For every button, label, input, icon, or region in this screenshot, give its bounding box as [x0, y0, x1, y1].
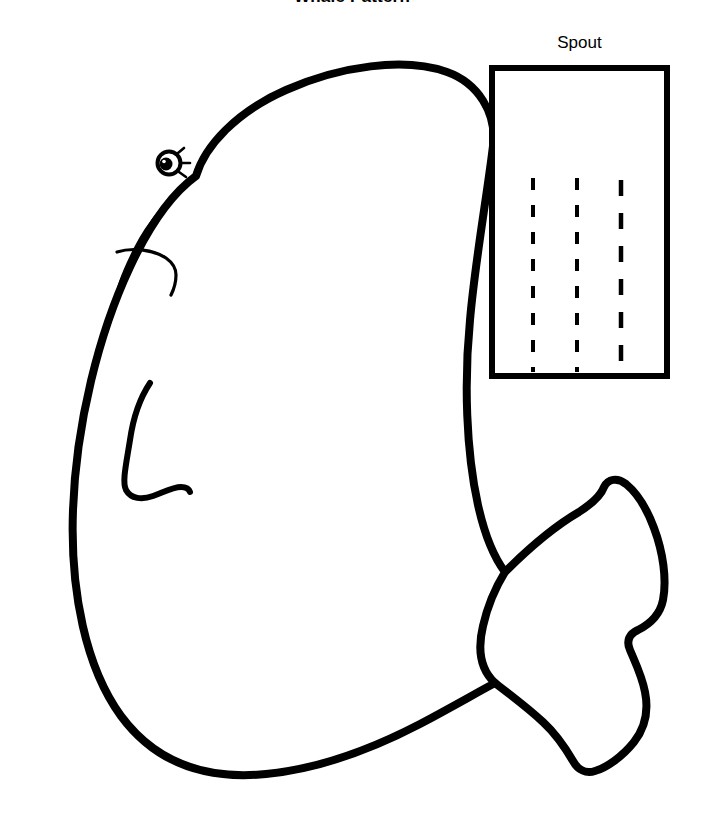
spout-pattern-piece	[492, 68, 667, 376]
spout-rectangle	[492, 68, 667, 376]
whale-tail-fluke	[495, 480, 665, 772]
eyelash-icon	[178, 148, 184, 153]
eye-highlight	[162, 160, 166, 164]
whale-eye	[158, 148, 191, 177]
whale-pattern-page: Whale Pattern Spout	[0, 0, 704, 814]
eye-pupil	[160, 158, 173, 171]
whale-body-outline	[73, 65, 505, 775]
whale-jaw-line	[117, 176, 196, 300]
pattern-artwork	[0, 0, 704, 814]
eyelash-icon	[179, 172, 186, 177]
whale-flipper	[124, 383, 190, 498]
